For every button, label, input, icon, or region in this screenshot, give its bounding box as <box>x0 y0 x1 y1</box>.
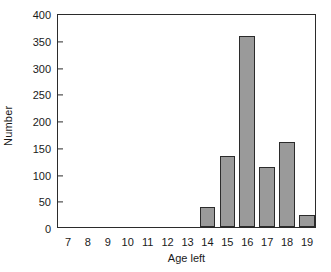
x-tick-label: 7 <box>65 237 71 248</box>
bar-chart-figure: Number 050100150200250300350400 78910111… <box>0 0 331 272</box>
y-tick-label: 250 <box>33 90 58 101</box>
y-tick-label: 0 <box>45 224 58 235</box>
x-tick-label: 10 <box>122 237 134 248</box>
y-tick-label: 350 <box>33 36 58 47</box>
y-tick-mark <box>58 121 63 122</box>
x-tick-label: 8 <box>85 237 91 248</box>
y-tick-mark <box>58 175 63 176</box>
x-tick-label: 15 <box>221 237 233 248</box>
y-tick-label: 50 <box>39 197 58 208</box>
y-tick-mark <box>58 95 63 96</box>
y-tick-mark <box>58 148 63 149</box>
y-tick-label: 400 <box>33 10 58 21</box>
y-tick-mark <box>58 202 63 203</box>
x-tick-label: 9 <box>105 237 111 248</box>
y-tick-label: 200 <box>33 117 58 128</box>
x-axis-title: Age left <box>57 252 316 264</box>
y-tick-label: 300 <box>33 63 58 74</box>
x-tick-label: 11 <box>142 237 153 248</box>
bar <box>279 142 295 227</box>
plot-area: 050100150200250300350400 789101112131415… <box>57 14 316 228</box>
x-tick-label: 14 <box>201 237 213 248</box>
y-tick-label: 100 <box>33 170 58 181</box>
bar <box>220 156 236 227</box>
y-tick-mark <box>58 68 63 69</box>
x-tick-label: 19 <box>301 237 313 248</box>
x-tick-label: 18 <box>281 237 293 248</box>
y-tick-label: 150 <box>33 143 58 154</box>
bar <box>239 36 255 227</box>
x-tick-label: 13 <box>181 237 193 248</box>
bar <box>299 215 315 227</box>
bar <box>259 167 275 227</box>
x-tick-label: 17 <box>261 237 273 248</box>
y-axis-title: Number <box>0 88 16 164</box>
y-tick-mark <box>58 41 63 42</box>
x-tick-label: 16 <box>241 237 253 248</box>
bar <box>200 207 216 227</box>
x-tick-label: 12 <box>161 237 173 248</box>
